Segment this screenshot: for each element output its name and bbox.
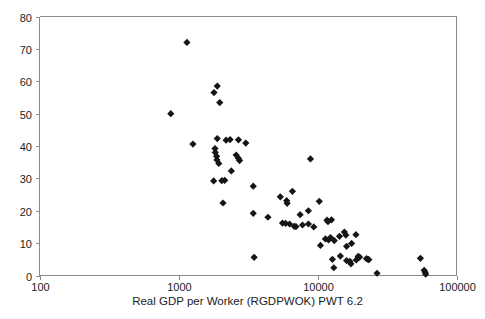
x-tick-label: 100000 xyxy=(439,281,476,293)
y-tick-label: 50 xyxy=(20,109,32,121)
scatter-chart: 01020304050607080 100100010000100000 Rea… xyxy=(0,0,485,319)
x-tick-label: 100 xyxy=(31,281,49,293)
y-tick-label: 70 xyxy=(20,44,32,56)
y-tick-label: 60 xyxy=(20,76,32,88)
y-tick-label: 30 xyxy=(20,173,32,185)
plot-area: 01020304050607080 100100010000100000 Rea… xyxy=(0,0,485,319)
chart-background xyxy=(0,0,485,319)
y-tick-label: 10 xyxy=(20,238,32,250)
y-tick-label: 20 xyxy=(20,206,32,218)
y-tick-label: 80 xyxy=(20,12,32,24)
x-tick-label: 1000 xyxy=(167,281,191,293)
y-tick-label: 40 xyxy=(20,141,32,153)
x-tick-label: 10000 xyxy=(303,281,334,293)
x-axis-title: Real GDP per Worker (RGDPWOK) PWT 6.2 xyxy=(132,295,363,307)
